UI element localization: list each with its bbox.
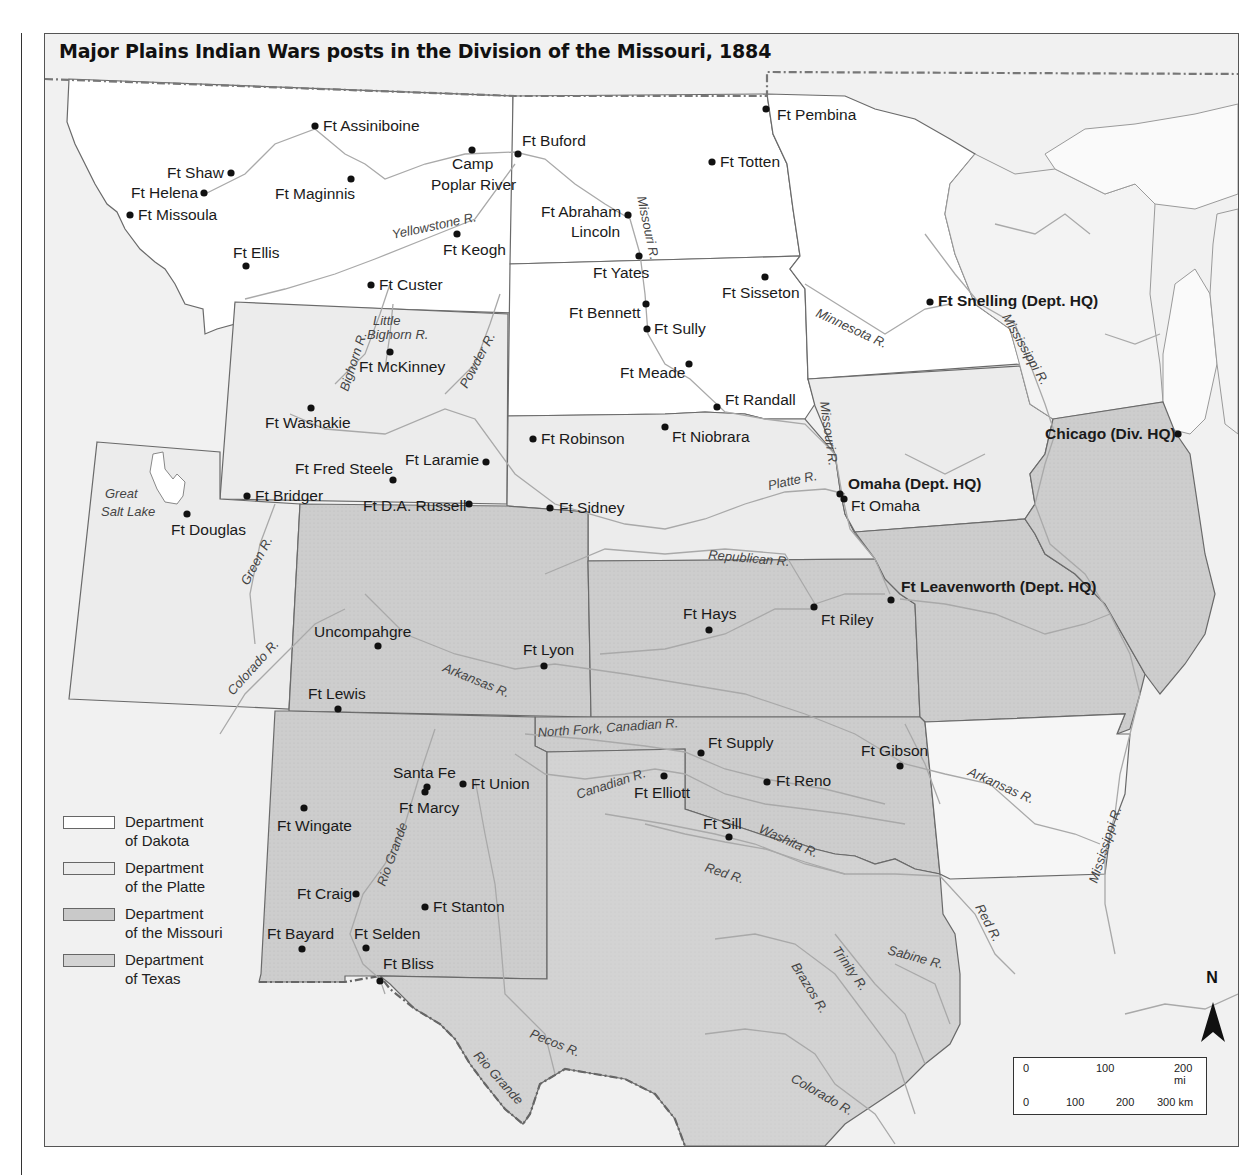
fort-label: Ft Hays <box>683 605 737 622</box>
fort-label: Ft Selden <box>354 925 420 942</box>
svg-text:Great: Great <box>105 486 139 501</box>
region-kansas <box>588 559 920 717</box>
fort-label: Lincoln <box>571 223 620 240</box>
fort-label: Santa Fe <box>393 764 456 781</box>
swatch-platte <box>63 862 115 875</box>
fort-label: Ft Ellis <box>233 244 280 261</box>
fort-label: Ft Bliss <box>383 955 434 972</box>
fort-label: Ft Supply <box>708 734 774 751</box>
fort-label: Ft Lyon <box>523 641 574 658</box>
legend-item-dakota: Department of Dakota <box>63 812 245 850</box>
north-label: N <box>1197 969 1227 987</box>
fort-label: Ft Stanton <box>433 898 505 915</box>
legend-label: Department <box>125 858 245 877</box>
svg-text:Little: Little <box>373 313 400 328</box>
swatch-texas <box>63 954 115 967</box>
fort-label: Ft McKinney <box>359 358 445 375</box>
scale-km-0: 0 <box>1023 1096 1029 1108</box>
scale-km-200: 200 <box>1116 1096 1134 1108</box>
fort-label: Ft Sill <box>703 815 742 832</box>
fort-label: Ft Gibson <box>861 742 928 759</box>
fort-label: Ft Buford <box>522 132 586 149</box>
fort-label: Ft Union <box>471 775 530 792</box>
fort-label: Ft Omaha <box>851 497 920 514</box>
fort-label-hq: Ft Snelling (Dept. HQ) <box>938 292 1098 309</box>
fort-label: Ft Riley <box>821 611 874 628</box>
fort-label: Ft Maginnis <box>275 185 355 202</box>
fort-label: Ft Sidney <box>559 499 625 516</box>
fort-label: Ft Shaw <box>167 164 225 181</box>
scale-bar: 0 100 200 mi 0 100 200 300 km <box>1013 1057 1207 1115</box>
fort-label: Ft Wingate <box>277 817 352 834</box>
fort-label-hq: Chicago (Div. HQ) <box>1045 425 1176 442</box>
legend-label: of the Platte <box>125 877 245 896</box>
legend-label: of Texas <box>125 969 245 988</box>
fort-label: Ft Custer <box>379 276 443 293</box>
fort-label: Ft Randall <box>725 391 796 408</box>
legend-label: Department <box>125 950 245 969</box>
map-frame: Ft Assiniboine Ft Shaw Ft Helena Ft Miss… <box>44 33 1239 1147</box>
legend-item-missouri: Department of the Missouri <box>63 904 245 942</box>
fort-label: Ft Elliott <box>634 784 691 801</box>
fort-label: Ft Robinson <box>541 430 625 447</box>
fort-label: Ft Laramie <box>405 451 479 468</box>
swatch-missouri <box>63 908 115 921</box>
fort-label: Poplar River <box>431 176 516 193</box>
fort-label: Ft Helena <box>131 184 199 201</box>
fort-label: Ft Meade <box>620 364 685 381</box>
fort-label: Ft Douglas <box>171 521 246 538</box>
legend-item-platte: Department of the Platte <box>63 858 245 896</box>
fort-label: Ft Assiniboine <box>323 117 420 134</box>
legend-item-texas: Department of Texas <box>63 950 245 988</box>
legend: Department of Dakota Department of the P… <box>63 812 245 996</box>
fort-label: Ft Craig <box>297 885 352 902</box>
fort-label: Ft D.A. Russell <box>363 497 466 514</box>
fort-label-hq: Ft Leavenworth (Dept. HQ) <box>901 578 1096 595</box>
fort-label: Ft Missoula <box>138 206 218 223</box>
page-margin-rule <box>21 33 22 1175</box>
scale-mi-200: 200 mi <box>1174 1062 1206 1086</box>
fort-label-hq: Omaha (Dept. HQ) <box>848 475 981 492</box>
legend-label: Department <box>125 812 245 831</box>
legend-label: of the Missouri <box>125 923 245 942</box>
scale-km-300: 300 km <box>1157 1096 1193 1108</box>
fort-label: Ft Totten <box>720 153 780 170</box>
fort-label: Ft Bennett <box>569 304 641 321</box>
fort-label: Ft Reno <box>776 772 831 789</box>
scale-mi-100: 100 <box>1096 1062 1114 1074</box>
fort-label: Ft Pembina <box>777 106 857 123</box>
scale-km-100: 100 <box>1066 1096 1084 1108</box>
fort-label: Ft Bayard <box>267 925 334 942</box>
legend-label: Department <box>125 904 245 923</box>
fort-label: Ft Sisseton <box>722 284 800 301</box>
fort-label: Ft Lewis <box>308 685 366 702</box>
fort-label: Ft Niobrara <box>672 428 750 445</box>
map-title: Major Plains Indian Wars posts in the Di… <box>59 40 771 62</box>
scale-mi-0: 0 <box>1023 1062 1029 1074</box>
fort-label: Ft Washakie <box>265 414 351 431</box>
svg-text:Bighorn R.: Bighorn R. <box>367 327 428 342</box>
fort-label: Ft Marcy <box>399 799 460 816</box>
fort-label: Uncompahgre <box>314 623 411 640</box>
fort-label: Ft Yates <box>593 264 650 281</box>
fort-label: Ft Abraham <box>541 203 621 220</box>
fort-label: Ft Bridger <box>255 487 323 504</box>
swatch-dakota <box>63 816 115 829</box>
fort-label: Ft Sully <box>654 320 706 337</box>
fort-label: Ft Keogh <box>443 241 506 258</box>
legend-label: of Dakota <box>125 831 245 850</box>
north-indicator: N <box>1197 969 1227 987</box>
fort-label: Ft Fred Steele <box>295 460 393 477</box>
svg-text:Salt Lake: Salt Lake <box>101 504 155 519</box>
fort-label: Camp <box>452 155 493 172</box>
